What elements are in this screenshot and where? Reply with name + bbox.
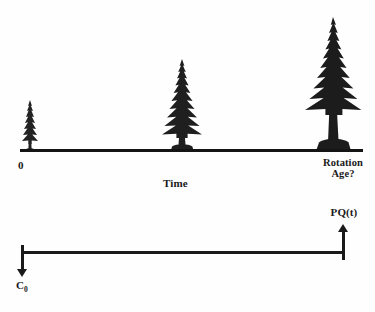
cost-arrow-head-icon (17, 269, 27, 277)
revenue-arrow-stem (342, 231, 345, 260)
rotation-age-line2: Age? (331, 168, 354, 179)
cost-arrow-stem (21, 245, 24, 271)
rotation-age-line1: Rotation (323, 157, 363, 168)
rotation-age-label: Rotation Age? (320, 157, 366, 180)
large-tree-icon (303, 16, 363, 151)
cost-label-base: C (16, 279, 24, 291)
revenue-arrow-head-icon (338, 224, 348, 232)
timeline-axis-label: Time (163, 178, 188, 190)
cost-label: C0 (16, 280, 28, 294)
medium-tree-icon (160, 58, 204, 151)
small-tree-icon (18, 99, 42, 151)
cost-label-subscript: 0 (24, 285, 28, 294)
timeline-axis (20, 149, 363, 152)
revenue-label: PQ(t) (325, 207, 363, 219)
cashflow-axis (21, 251, 344, 254)
rotation-age-figure: 0 Time Rotation Age? PQ(t) C0 (0, 0, 375, 312)
timeline-origin-label: 0 (18, 160, 24, 172)
